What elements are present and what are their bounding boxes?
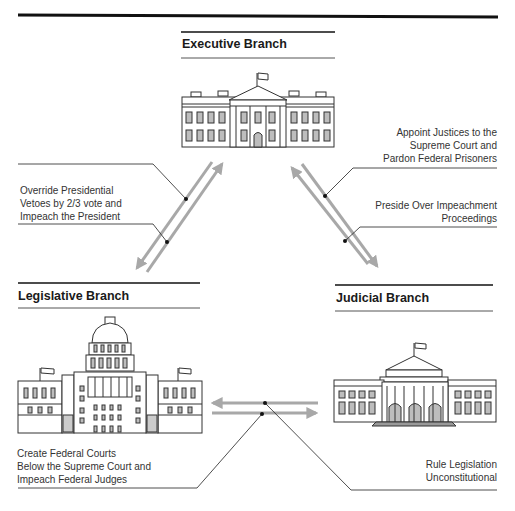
check-legislative-on-executive: Override Presidential Vetoes by 2/3 vote… <box>20 184 122 223</box>
diagram-canvas <box>0 0 515 511</box>
check-legislative-on-judicial: Create Federal Courts Below the Supreme … <box>17 447 151 486</box>
check-executive-on-judicial: Appoint Justices to the Supreme Court an… <box>383 126 497 165</box>
legislative-branch-title: Legislative Branch <box>18 289 129 303</box>
executive-building <box>182 73 334 147</box>
top-rule <box>18 15 498 17</box>
check-judicial-on-legislative: Rule Legislation Unconstitutional <box>426 458 497 484</box>
executive-branch-title: Executive Branch <box>182 37 287 51</box>
arrows-exec-leg <box>137 162 222 272</box>
judicial-branch-title: Judicial Branch <box>336 291 429 305</box>
legislative-building <box>18 317 202 433</box>
check-judicial-on-executive: Preside Over Impeachment Proceedings <box>375 199 497 225</box>
judicial-building <box>334 343 496 426</box>
arrows-exec-jud <box>292 164 377 266</box>
